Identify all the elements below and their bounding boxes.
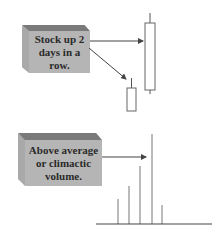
large-candle	[145, 13, 155, 94]
arrow-to-small-candle	[89, 48, 126, 79]
diagram-canvas	[0, 0, 224, 244]
small-candle	[127, 78, 136, 111]
volume-bars	[118, 134, 162, 224]
